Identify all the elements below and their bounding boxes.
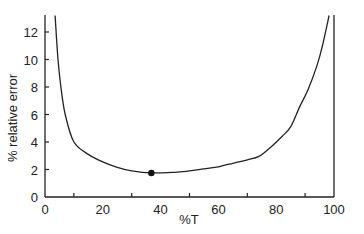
x-tick-label: 20 (96, 202, 110, 217)
x-tick-label: 80 (269, 202, 283, 217)
y-axis-label: % relative error (5, 73, 20, 162)
axes (45, 15, 334, 197)
x-tick-label: 40 (153, 202, 167, 217)
error-curve (55, 16, 329, 173)
y-tick-label: 8 (31, 80, 38, 95)
y-tick-label: 0 (31, 190, 38, 205)
y-tick-label: 2 (31, 163, 38, 178)
y-tick-label: 4 (31, 135, 38, 150)
relative-error-chart: 020406080100 024681012 %T % relative err… (0, 0, 364, 234)
x-tick-label: 100 (323, 202, 345, 217)
x-tick-label: 60 (211, 202, 225, 217)
annotations (148, 170, 154, 176)
x-tick-label: 0 (41, 202, 48, 217)
x-axis-label: %T (179, 212, 199, 227)
minimum-point-marker (148, 170, 154, 176)
y-tick-label: 6 (31, 108, 38, 123)
y-tick-label: 10 (24, 53, 38, 68)
y-tick-label: 12 (24, 25, 38, 40)
